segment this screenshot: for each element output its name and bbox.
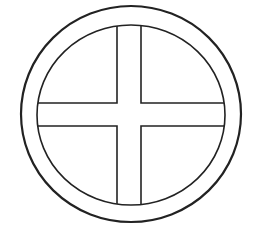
cross — [0, 0, 257, 234]
cross-outline — [0, 0, 257, 234]
inner-ring — [37, 25, 225, 205]
outer-ring — [21, 6, 241, 222]
sun-cross-icon — [0, 0, 257, 234]
figure-canvas: Circled cross symbol (sun cross / wheel … — [0, 0, 257, 234]
